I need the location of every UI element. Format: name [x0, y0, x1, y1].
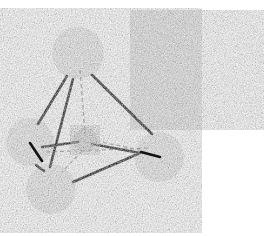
large-sphere-bottom-front	[26, 164, 76, 214]
large-sphere-top	[52, 27, 104, 79]
small-sphere-interstitial	[73, 128, 97, 152]
pale-sphere-right	[191, 56, 255, 120]
small-sphere-group	[73, 128, 97, 152]
molecular-model-figure	[0, 0, 264, 236]
figure-root	[0, 0, 264, 236]
